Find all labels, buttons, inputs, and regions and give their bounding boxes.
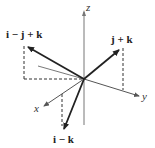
label-i-minus-k: i − k <box>53 133 75 145</box>
vector-j-plus-k <box>84 50 119 79</box>
vector-diagram: z y x i − j + k j + k i − k <box>0 0 155 148</box>
z-axis <box>82 10 86 125</box>
label-i-minus-j-plus-k: i − j + k <box>6 28 43 40</box>
z-axis-label: z <box>85 1 91 13</box>
label-j-plus-k: j + k <box>110 33 133 45</box>
y-axis <box>84 79 139 96</box>
vector-i-minus-j-plus-k <box>28 47 84 79</box>
y-axis-label: y <box>141 90 147 102</box>
vector-i-minus-k <box>64 79 84 129</box>
negative-y-axis-line <box>38 66 84 79</box>
x-axis-label: x <box>33 102 39 114</box>
